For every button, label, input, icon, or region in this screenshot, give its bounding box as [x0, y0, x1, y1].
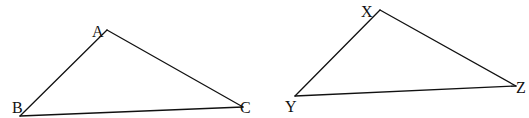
triangle-xyz: X Y Z: [285, 3, 526, 115]
edge-bc: [20, 107, 243, 116]
vertex-label-c: C: [240, 99, 251, 116]
vertex-label-x: X: [361, 3, 373, 20]
triangle-abc: A B C: [12, 23, 251, 116]
edge-yz: [295, 86, 516, 96]
vertex-label-b: B: [12, 99, 23, 116]
edge-ca: [107, 30, 243, 107]
triangles-diagram: A B C X Y Z: [0, 0, 529, 118]
edge-ab: [20, 30, 107, 116]
edge-xy: [295, 10, 380, 96]
vertex-label-a: A: [92, 23, 104, 40]
edge-zx: [380, 10, 516, 86]
vertex-label-z: Z: [516, 79, 526, 96]
vertex-label-y: Y: [285, 98, 297, 115]
